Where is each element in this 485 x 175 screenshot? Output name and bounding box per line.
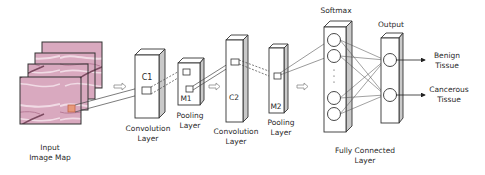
conv1-block	[135, 49, 165, 118]
output-block	[381, 33, 403, 123]
cnn-diagram: C1 M1 C2 M2	[0, 0, 485, 175]
neuron	[328, 50, 341, 63]
benign-class-label: Benign Tissue	[434, 51, 460, 71]
neuron	[328, 108, 341, 121]
flow-arrow-icon	[297, 83, 308, 90]
pool2-label: Pooling Layer	[267, 118, 294, 138]
softmax-block	[324, 21, 352, 132]
fc-label: Fully Connected Layer	[335, 146, 395, 166]
pool1-label: Pooling Layer	[176, 111, 203, 131]
m2-label: M2	[270, 102, 281, 111]
output-label: Output	[378, 20, 404, 30]
neuron	[328, 34, 341, 47]
c1-label: C1	[142, 73, 153, 82]
flow-arrow-icon	[209, 83, 220, 90]
conv1-label: Convolution Layer	[126, 124, 171, 144]
c2-label: C2	[229, 93, 239, 102]
cancerous-class-label: Cancerous Tissue	[429, 85, 469, 105]
input-image-stack	[20, 42, 102, 124]
output-neuron-benign	[384, 54, 397, 67]
m1-label: M1	[180, 94, 191, 103]
conv2-label: Convolution Layer	[214, 127, 259, 147]
softmax-label: Softmax	[320, 6, 351, 16]
input-label: Input Image Map	[29, 143, 71, 163]
input-patch	[68, 105, 75, 112]
flow-arrow-icon	[114, 83, 126, 90]
output-neuron-cancerous	[384, 89, 397, 102]
neuron	[328, 92, 341, 105]
conv2-block	[226, 35, 248, 122]
